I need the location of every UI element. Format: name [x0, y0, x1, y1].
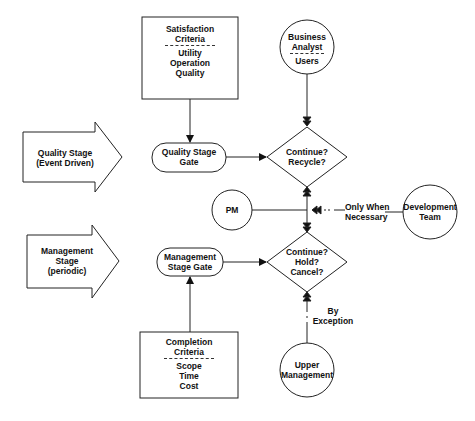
- management-stage-line-2: Stage: [27, 256, 107, 266]
- quality-stage-label: Quality Stage (Event Driven): [25, 148, 105, 168]
- criteria-quality: Quality: [142, 68, 238, 78]
- decision-management-label: Continue? Hold? Cancel?: [277, 247, 337, 277]
- criteria-cost: Cost: [140, 381, 238, 391]
- criteria-operation: Operation: [142, 58, 238, 68]
- criteria-time: Time: [140, 371, 238, 381]
- management-stage-line-3: (periodic): [27, 266, 107, 276]
- quality-stage-line-1: Quality Stage: [25, 148, 105, 158]
- separator: [165, 45, 215, 46]
- only-when-line-1: Only When: [345, 202, 385, 212]
- decision-mgmt-line-1: Continue?: [277, 247, 337, 257]
- management-gate-label: Management Stage Gate: [157, 252, 223, 272]
- quality-gate-label: Quality Stage Gate: [152, 147, 226, 167]
- management-gate-line-1: Management: [157, 252, 223, 262]
- business-analyst-label: Business Analyst Users: [280, 32, 334, 66]
- development-team-label: Development Team: [403, 202, 457, 222]
- criteria-scope: Scope: [140, 361, 238, 371]
- decision-mgmt-line-3: Cancel?: [277, 267, 337, 277]
- satisfaction-criteria-label: Satisfaction Criteria Utility Operation …: [142, 24, 238, 78]
- management-stage-line-1: Management: [27, 246, 107, 256]
- only-when-necessary-label: Only When Necessary: [345, 202, 385, 222]
- pm-label: PM: [212, 205, 252, 215]
- upper-management-line-2: Management: [280, 370, 334, 380]
- satisfaction-title-1: Satisfaction: [142, 24, 238, 34]
- decision-quality-label: Continue? Recycle?: [277, 147, 337, 167]
- decision-quality-line-1: Continue?: [277, 147, 337, 157]
- completion-criteria-label: Completion Criteria Scope Time Cost: [140, 337, 238, 391]
- management-gate-line-2: Stage Gate: [157, 262, 223, 272]
- upper-management-line-1: Upper: [280, 360, 334, 370]
- only-when-line-2: Necessary: [345, 212, 385, 222]
- by-exception-line-2: Exception: [310, 316, 356, 326]
- satisfaction-title-2: Criteria: [142, 34, 238, 44]
- completion-title-1: Completion: [140, 337, 238, 347]
- separator: [290, 53, 324, 54]
- quality-gate-line-2: Gate: [152, 157, 226, 167]
- dev-team-line-2: Team: [403, 212, 457, 222]
- decision-quality-line-2: Recycle?: [277, 157, 337, 167]
- analyst-line-1: Business: [280, 32, 334, 42]
- by-exception-label: By Exception: [310, 306, 356, 326]
- dev-team-line-1: Development: [403, 202, 457, 212]
- separator: [164, 358, 214, 359]
- completion-title-2: Criteria: [140, 347, 238, 357]
- management-stage-label: Management Stage (periodic): [27, 246, 107, 276]
- analyst-line-3: Users: [280, 56, 334, 66]
- decision-mgmt-line-2: Hold?: [277, 257, 337, 267]
- pm-text: PM: [212, 205, 252, 215]
- by-exception-line-1: By: [310, 306, 356, 316]
- criteria-utility: Utility: [142, 48, 238, 58]
- analyst-line-2: Analyst: [280, 42, 334, 52]
- quality-stage-line-2: (Event Driven): [25, 158, 105, 168]
- quality-gate-line-1: Quality Stage: [152, 147, 226, 157]
- upper-management-label: Upper Management: [280, 360, 334, 380]
